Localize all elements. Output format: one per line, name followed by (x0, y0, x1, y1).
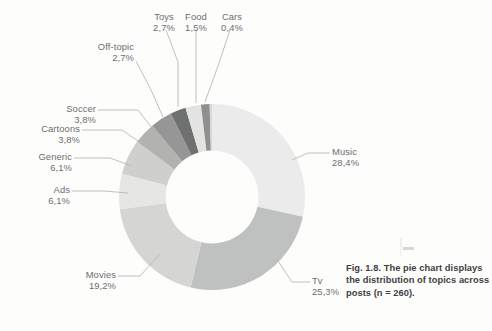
slice-label-cartoons-value: 3,8% (0, 134, 80, 145)
scan-artifact (396, 238, 414, 258)
leader-line-music (292, 153, 330, 160)
slice-label-music-value: 28,4% (332, 157, 359, 168)
slice-label-cars-name: Cars (206, 11, 258, 22)
slice-label-generic-name: Generic (0, 151, 72, 162)
slice-label-soccer: Soccer 3,8% (18, 103, 96, 126)
slice-label-tv-value: 25,3% (312, 286, 339, 297)
leader-line-toys (166, 30, 178, 107)
slice-label-soccer-value: 3,8% (18, 114, 96, 125)
pie-slice-group (119, 104, 305, 290)
leader-line-soccer (98, 110, 152, 128)
leader-line-tv (276, 258, 310, 282)
slice-label-offtopic: Off-topic 2,7% (56, 41, 134, 64)
slice-label-movies-value: 19,2% (38, 280, 116, 291)
leader-line-generic (74, 158, 132, 166)
pie-slice-tv (191, 207, 303, 290)
pie-slice-movies (120, 203, 201, 287)
figure-container: Music 28,4% Tv 25,3% Movies 19,2% Ads 6,… (0, 0, 492, 331)
slice-label-movies-name: Movies (38, 269, 116, 280)
scan-artifact-streak (400, 238, 402, 256)
slice-label-ads: Ads 6,1% (0, 184, 70, 207)
slice-label-offtopic-value: 2,7% (56, 52, 134, 63)
figure-caption: Fig. 1.8. The pie chart displays the dis… (346, 262, 492, 299)
slice-label-generic-value: 6,1% (0, 162, 72, 173)
slice-label-cars-value: 0,4% (206, 22, 258, 33)
slice-label-movies: Movies 19,2% (38, 269, 116, 292)
scan-artifact-mark (403, 247, 414, 250)
slice-label-soccer-name: Soccer (18, 103, 96, 114)
slice-label-tv: Tv 25,3% (312, 275, 339, 298)
slice-label-cars: Cars 0,4% (206, 11, 258, 34)
slice-label-cartoons: Cartoons 3,8% (0, 123, 80, 146)
slice-label-tv-name: Tv (312, 275, 339, 286)
leader-line-cars (205, 30, 230, 102)
slice-label-ads-value: 6,1% (0, 195, 70, 206)
pie-slice-music (212, 104, 305, 217)
slice-label-music: Music 28,4% (332, 146, 359, 169)
slice-label-generic: Generic 6,1% (0, 151, 72, 174)
slice-label-offtopic-name: Off-topic (56, 41, 134, 52)
leader-line-offtopic (136, 61, 163, 117)
leader-line-cartoons (82, 130, 141, 143)
slice-label-music-name: Music (332, 146, 359, 157)
slice-label-ads-name: Ads (0, 184, 70, 195)
